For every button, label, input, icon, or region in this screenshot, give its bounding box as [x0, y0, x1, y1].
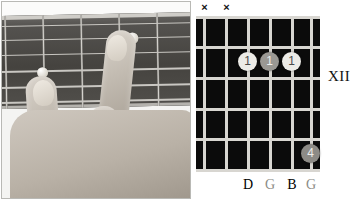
- fret-line: [196, 108, 320, 111]
- fret-line: [196, 169, 320, 172]
- note-name-string-3: D: [240, 176, 256, 194]
- guitar-string: [1, 36, 191, 41]
- fret-line: [196, 16, 320, 19]
- fret-line: [196, 138, 320, 141]
- string-line: [291, 16, 294, 172]
- finger-dot-string-4: 1: [260, 52, 279, 71]
- fret-position-label: XII: [328, 68, 350, 85]
- finger-dot-string-6: 4: [301, 144, 320, 163]
- string-line: [225, 16, 228, 172]
- string-line: [269, 16, 272, 172]
- finger-dot-string-3: 1: [238, 52, 257, 71]
- chord-diagram: × × 1 1 1 4: [196, 16, 320, 172]
- guitar-chord-figure: × × 1 1 1 4 XII D G B G: [0, 0, 360, 202]
- hand-position-photo: [1, 1, 191, 199]
- note-name-row: D G B G: [196, 176, 320, 196]
- mute-marker-string-2: ×: [221, 1, 232, 13]
- string-line: [247, 16, 250, 172]
- fret-wire: [4, 16, 8, 109]
- note-name-string-5: B: [284, 176, 300, 194]
- fret-line: [196, 77, 320, 80]
- fret-wire: [156, 13, 160, 106]
- guitar-string: [1, 22, 191, 27]
- mute-marker-string-1: ×: [199, 1, 210, 13]
- guitar-string: [1, 67, 191, 72]
- finger-dot-string-5: 1: [282, 52, 301, 71]
- guitar-string: [1, 51, 191, 56]
- fret-line: [196, 46, 320, 49]
- note-name-string-6: G: [303, 176, 319, 194]
- note-name-string-4: G: [262, 176, 278, 194]
- fret-wire: [80, 14, 84, 107]
- string-line: [203, 16, 206, 172]
- hand-palm: [10, 110, 191, 199]
